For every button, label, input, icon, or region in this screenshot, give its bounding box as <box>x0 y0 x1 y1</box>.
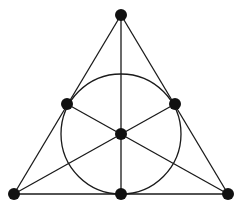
point-bottom-left <box>8 188 20 200</box>
point-left-mid <box>61 98 73 110</box>
lines <box>14 15 228 194</box>
point-bottom-right <box>222 188 234 200</box>
fano-plane-diagram <box>0 0 243 208</box>
point-center <box>115 128 127 140</box>
point-right-mid <box>169 98 181 110</box>
line-left-mid-bottom-right <box>67 104 228 194</box>
point-bottom-mid <box>115 188 127 200</box>
line-right-mid-bottom-left <box>14 104 175 194</box>
point-top <box>115 9 127 21</box>
